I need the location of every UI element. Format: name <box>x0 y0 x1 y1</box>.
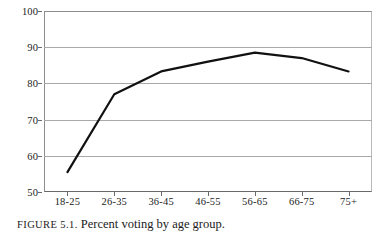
y-tick-label: 100 <box>22 6 38 17</box>
y-tick-label: 50 <box>27 187 38 198</box>
plot-area <box>44 11 372 192</box>
y-tick-mark <box>38 192 42 193</box>
figure-caption-label: FIGURE 5.1. <box>17 219 78 230</box>
x-tick-label: 36-45 <box>148 196 174 207</box>
y-tick-mark <box>38 83 42 84</box>
y-tick-label: 60 <box>27 150 38 161</box>
y-tick-mark <box>38 120 42 121</box>
y-tick-label: 90 <box>27 42 38 53</box>
x-tick-label: 18-25 <box>55 196 81 207</box>
y-tick-label: 80 <box>27 78 38 89</box>
figure-caption-text: Percent voting by age group. <box>81 217 225 231</box>
y-axis: 5060708090100 <box>0 11 38 192</box>
y-tick-mark <box>38 156 42 157</box>
x-tick-label: 66-75 <box>289 196 315 207</box>
line-series <box>44 11 372 192</box>
x-tick-label: 75+ <box>340 196 357 207</box>
x-axis: 18-2526-3536-4546-5556-6566-7575+ <box>44 196 372 212</box>
series-polyline <box>67 53 348 172</box>
x-tick-label: 56-65 <box>242 196 268 207</box>
x-tick-label: 46-55 <box>195 196 221 207</box>
y-tick-label: 70 <box>27 114 38 125</box>
y-tick-mark <box>38 11 42 12</box>
figure-container: 5060708090100 18-2526-3536-4546-5556-656… <box>0 0 391 238</box>
x-tick-label: 26-35 <box>102 196 128 207</box>
figure-caption: FIGURE 5.1. Percent voting by age group. <box>17 217 377 232</box>
y-tick-mark <box>38 47 42 48</box>
